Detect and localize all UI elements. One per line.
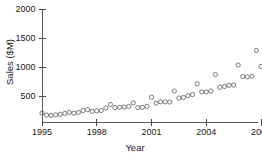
data-point (163, 100, 167, 104)
data-point (254, 48, 258, 52)
data-point (227, 83, 231, 87)
data-point (58, 112, 62, 116)
data-point (113, 106, 117, 110)
data-point (181, 95, 185, 99)
data-point (127, 104, 131, 108)
data-point (145, 104, 149, 108)
data-point (190, 92, 194, 96)
data-point (99, 108, 103, 112)
data-point (86, 108, 90, 112)
data-point (90, 109, 94, 113)
data-point (222, 84, 226, 88)
data-point (54, 113, 58, 117)
data-point (140, 105, 144, 109)
data-point (245, 75, 249, 79)
data-point (186, 94, 190, 98)
data-point (213, 72, 217, 76)
data-points (40, 21, 262, 118)
data-point (44, 113, 48, 117)
data-point (195, 82, 199, 86)
y-tick-label: 500 (20, 91, 35, 101)
data-point (63, 111, 67, 115)
data-point (67, 110, 71, 114)
data-point (49, 113, 53, 117)
data-point (108, 102, 112, 106)
x-axis: 19951998200120042007 (32, 119, 262, 138)
y-tick-label: 2000 (15, 4, 35, 14)
scatter-chart: 500100015002000 19951998200120042007 Sal… (0, 0, 262, 154)
x-tick-label: 1998 (87, 127, 107, 137)
x-tick-label: 2004 (196, 127, 216, 137)
data-point (72, 111, 76, 115)
data-point (117, 105, 121, 109)
data-point (232, 83, 236, 87)
data-point (177, 96, 181, 100)
x-tick-label: 1995 (32, 127, 52, 137)
data-point (168, 100, 172, 104)
y-axis-title: Sales ($M) (4, 39, 15, 85)
y-tick-label: 1000 (15, 62, 35, 72)
data-point (154, 101, 158, 105)
x-tick-label: 2007 (251, 127, 262, 137)
data-point (81, 108, 85, 112)
data-point (149, 95, 153, 99)
data-point (250, 74, 254, 78)
data-point (76, 110, 80, 114)
x-tick-label: 2001 (141, 127, 161, 137)
data-point (209, 89, 213, 93)
data-point (218, 85, 222, 89)
data-point (131, 101, 135, 105)
y-axis: 500100015002000 (15, 4, 45, 122)
data-point (172, 89, 176, 93)
plot-area: 500100015002000 19951998200120042007 Sal… (0, 0, 262, 154)
data-point (200, 90, 204, 94)
data-point (236, 63, 240, 67)
data-point (241, 74, 245, 78)
y-tick-label: 1500 (15, 33, 35, 43)
data-point (136, 106, 140, 110)
data-point (122, 105, 126, 109)
data-point (104, 106, 108, 110)
data-point (159, 100, 163, 104)
data-point (259, 64, 262, 68)
data-point (95, 109, 99, 113)
data-point (204, 90, 208, 94)
x-axis-title: Year (125, 142, 144, 153)
